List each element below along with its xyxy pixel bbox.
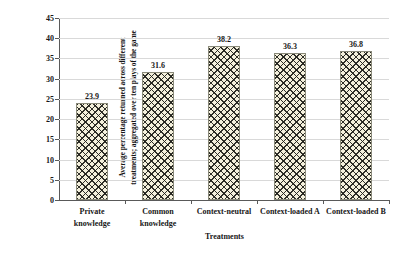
x-axis-category-label: Context-loaded B [323,206,389,218]
y-axis-tick-label: 5 [32,175,54,184]
x-axis-category-label-line: knowledge [59,218,125,230]
bar [142,72,174,200]
x-axis-category-label-line: Context-loaded A [257,206,323,218]
x-axis-tick-mark [257,200,258,204]
x-axis-category-label-line: knowledge [125,218,191,230]
x-axis-tick-mark [191,200,192,204]
y-axis-tick-label: 20 [32,115,54,124]
x-axis-category-label-line: Context-loaded B [323,206,389,218]
bar-value-label: 36.8 [331,40,381,49]
bar [340,51,372,200]
y-axis-tick-labels: 051015202530354045 [30,18,54,201]
x-axis-line [59,200,390,201]
bar [76,103,108,200]
x-axis-category-label: Privateknowledge [59,206,125,229]
bar-value-label: 23.9 [67,92,117,101]
y-axis-tick-label: 15 [32,135,54,144]
y-axis-tick-label: 40 [32,34,54,43]
x-axis-category-label: Context-loaded A [257,206,323,218]
bar [274,53,306,200]
x-axis-category-label: Commonknowledge [125,206,191,229]
bar-chart-figure: Average percentage returned across diffe… [0,0,417,254]
bar-value-label: 36.3 [265,42,315,51]
x-axis-tick-mark [125,200,126,204]
bar-value-label: 38.2 [199,35,249,44]
y-axis-tick-label: 25 [32,94,54,103]
x-axis-category-label-line: Private [59,206,125,218]
x-axis-category-label: Context-neutral [191,206,257,218]
x-axis-category-label-line: Context-neutral [191,206,257,218]
x-axis-category-label-line: Common [125,206,191,218]
x-axis-title: Treatments [59,232,390,241]
y-axis-tick-label: 10 [32,155,54,164]
y-axis-tick-label: 30 [32,74,54,83]
gridline [59,18,389,19]
y-axis-tick-label: 35 [32,54,54,63]
y-axis-tick-label: 45 [32,14,54,23]
y-axis-tick-label: 0 [32,196,54,205]
bar-value-label: 31.6 [133,61,183,70]
x-axis-tick-mark [323,200,324,204]
x-axis-tick-mark [389,200,390,204]
bar [208,46,240,200]
